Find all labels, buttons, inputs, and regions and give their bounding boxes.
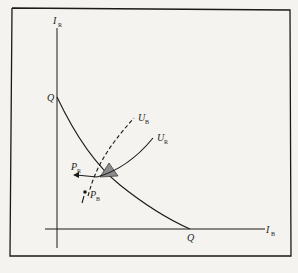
svg-text:I: I <box>52 15 57 26</box>
indifference-curve-r-label: U R <box>157 132 168 145</box>
frontier-horizontal-intercept-label: Q <box>187 232 195 243</box>
svg-text:B: B <box>96 196 100 202</box>
point-b-dot <box>83 190 87 194</box>
point-b-label: P B <box>89 189 100 202</box>
point-r-label: P R <box>70 161 81 174</box>
vertical-axis-label: I R <box>52 15 62 28</box>
svg-text:I: I <box>265 224 270 235</box>
indifference-curve-b-label: U B <box>138 112 149 125</box>
indifference-curve-b <box>88 118 134 196</box>
diagram-canvas: I R I B Q Q U R U B P R P B <box>0 0 298 273</box>
frontier-vertical-intercept-label: Q <box>47 92 55 103</box>
path-tail <box>82 196 84 203</box>
horizontal-axis-label: I B <box>265 224 275 237</box>
svg-text:B: B <box>271 231 275 237</box>
svg-text:R: R <box>164 139 168 145</box>
svg-text:R: R <box>77 168 81 174</box>
svg-text:B: B <box>145 119 149 125</box>
point-r-arrow-line <box>76 175 97 177</box>
svg-text:R: R <box>58 22 62 28</box>
frame-border <box>10 8 291 256</box>
